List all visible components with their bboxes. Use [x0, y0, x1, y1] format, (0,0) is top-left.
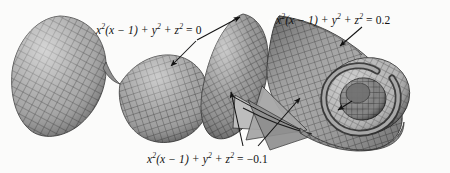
equation-label-negative: x2(x − 1) + y2 + z2 = −0.1 — [147, 152, 268, 165]
level-surfaces-figure: x2(x − 1) + y2 + z2 = 0 x2(x − 1) + y2 +… — [0, 0, 450, 173]
equation-label-positive: x2(x − 1) + y2 + z2 = 0.2 — [276, 13, 390, 26]
equation-zero-text: x2(x − 1) + y2 + z2 = 0 — [96, 24, 202, 36]
equation-positive-text: x2(x − 1) + y2 + z2 = 0.2 — [276, 14, 390, 26]
equation-label-zero: x2(x − 1) + y2 + z2 = 0 — [96, 23, 202, 36]
equation-negative-text: x2(x − 1) + y2 + z2 = −0.1 — [147, 153, 268, 165]
